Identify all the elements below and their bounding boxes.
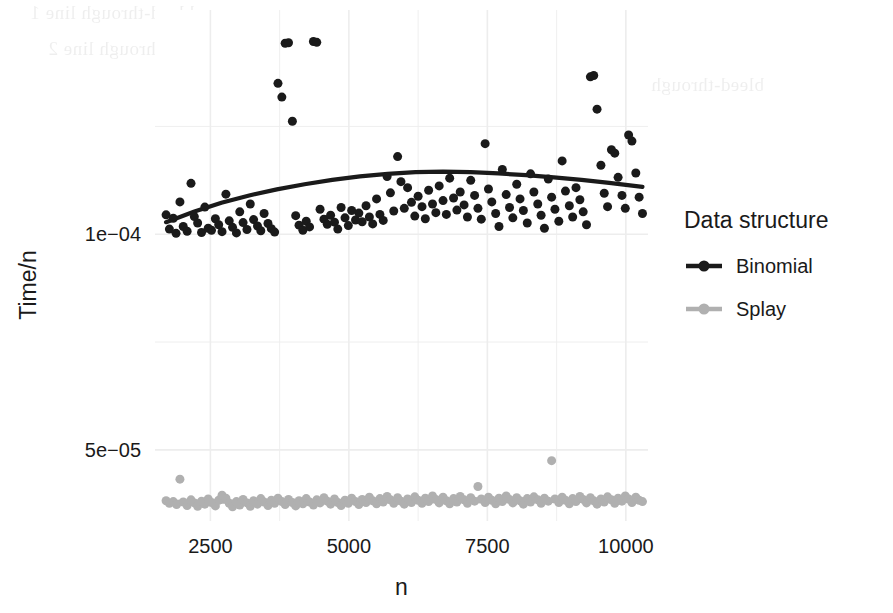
scatter-plot: 5e−051e−04 25005000750010000 Data struct…	[0, 0, 893, 613]
legend-key-marker	[699, 304, 710, 315]
y-tick-label: 5e−05	[85, 439, 141, 461]
x-tick-label: 10000	[598, 535, 654, 557]
y-axis-tick-labels: 5e−051e−04	[85, 223, 141, 461]
legend: Data structureBinomialSplay	[684, 207, 828, 320]
figure-canvas: bleed-through line 1 bleed-through line …	[0, 0, 893, 613]
legend-item-binomial[interactable]: Binomial	[686, 255, 813, 277]
legend-item-splay[interactable]: Splay	[686, 298, 786, 320]
y-tick-label: 1e−04	[85, 223, 141, 245]
legend-key-marker	[699, 261, 710, 272]
x-tick-label: 7500	[465, 535, 510, 557]
legend-item-label: Binomial	[736, 255, 813, 277]
x-axis-tick-labels: 25005000750010000	[188, 535, 654, 557]
x-tick-label: 5000	[327, 535, 372, 557]
legend-title: Data structure	[684, 207, 828, 233]
plot-panel-background	[155, 10, 648, 521]
legend-item-label: Splay	[736, 298, 786, 320]
x-tick-label: 2500	[188, 535, 233, 557]
